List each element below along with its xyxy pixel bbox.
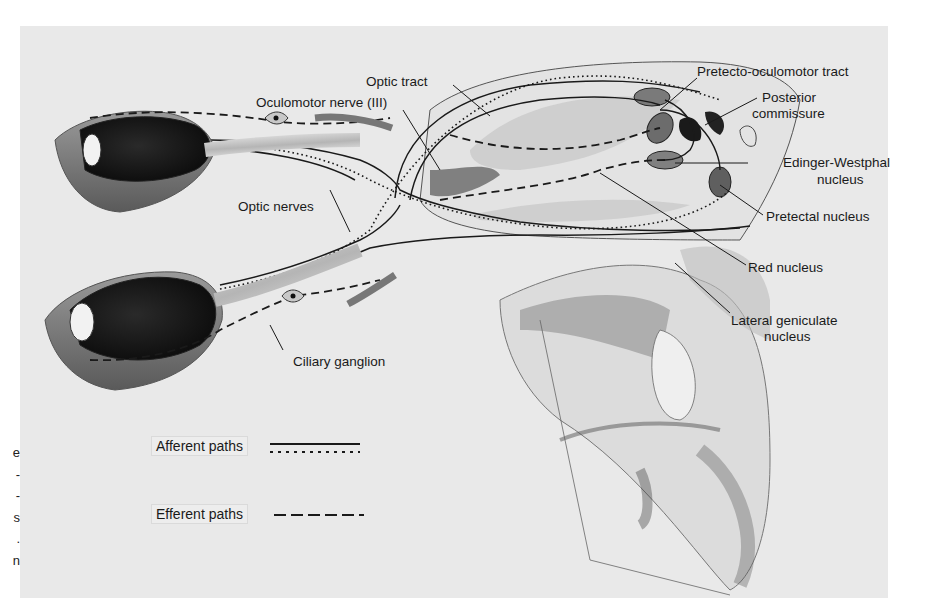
label-edinger-westphal-line2: nucleus <box>817 172 864 187</box>
label-posterior-commissure-line1: Posterior <box>762 90 816 105</box>
label-pretectal-nucleus: Pretectal nucleus <box>766 209 870 224</box>
label-lateral-geniculate-line2: nucleus <box>764 329 811 344</box>
label-pretecto-oculomotor-tract: Pretecto-oculomotor tract <box>697 64 849 79</box>
label-lateral-geniculate-line1: Lateral geniculate <box>731 313 838 328</box>
label-red-nucleus: Red nucleus <box>748 260 823 275</box>
label-edinger-westphal-line1: Edinger-Westphal <box>783 155 890 170</box>
efferent-line-sample-icon <box>272 510 367 520</box>
brainstem-icon <box>500 247 770 595</box>
upper-eye-icon <box>55 111 392 212</box>
legend-efferent-label: Efferent paths <box>151 504 248 524</box>
lower-eye-icon <box>45 250 395 390</box>
label-ciliary-ganglion: Ciliary ganglion <box>293 354 385 369</box>
pretectal-nucleus-icon <box>709 167 731 197</box>
label-optic-nerves: Optic nerves <box>238 199 314 214</box>
lens-icon <box>70 303 94 341</box>
label-posterior-commissure-line2: commissure <box>752 106 825 121</box>
afferent-line-sample-icon <box>268 440 363 456</box>
lens-icon <box>83 134 101 166</box>
label-oculomotor-nerve: Oculomotor nerve (III) <box>256 95 387 110</box>
label-optic-tract: Optic tract <box>366 74 428 89</box>
legend-afferent-label: Afferent paths <box>151 436 248 456</box>
